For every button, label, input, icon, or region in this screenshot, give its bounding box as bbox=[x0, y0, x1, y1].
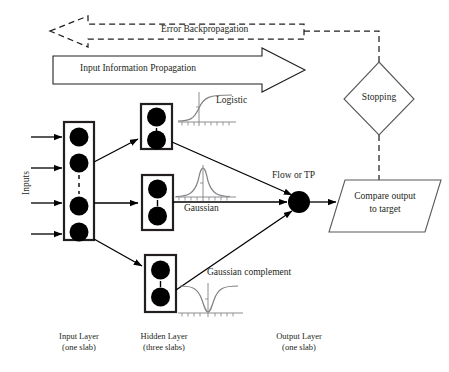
hidden-layer-caption-name: Hidden Layer bbox=[118, 331, 210, 342]
input-node bbox=[70, 197, 89, 216]
gaussian-activation-plot bbox=[175, 165, 236, 201]
input-slab bbox=[64, 122, 94, 242]
output-layer-caption-name: Output Layer bbox=[254, 331, 344, 342]
hidden-node bbox=[151, 261, 170, 280]
error-backpropagation-label: Error Backpropagation bbox=[161, 24, 248, 34]
flow-or-tp-label: Flow or TP bbox=[272, 170, 315, 180]
gaussian-label: Gaussian bbox=[184, 203, 219, 213]
compare-output-line-1: Compare output bbox=[335, 190, 435, 203]
hidden-node bbox=[151, 288, 170, 307]
hidden-slab-logistic bbox=[141, 104, 172, 150]
logistic-label: Logistic bbox=[216, 95, 247, 105]
input-node bbox=[70, 223, 89, 242]
output-layer-caption-sub: (one slab) bbox=[254, 342, 344, 353]
hidden-node bbox=[147, 131, 166, 150]
hidden-node bbox=[147, 108, 166, 127]
input-node bbox=[70, 128, 89, 147]
input-to-hidden-connections bbox=[94, 139, 142, 266]
compare-output-line-2: to target bbox=[335, 203, 435, 216]
input-layer-caption-name: Input Layer bbox=[39, 331, 119, 342]
hidden-slab-gaussian-complement bbox=[145, 255, 176, 312]
diagram-canvas bbox=[0, 0, 449, 372]
gaussian-complement-label: Gaussian complement bbox=[207, 267, 291, 277]
stopping-label: Stopping bbox=[344, 92, 414, 102]
input-layer-caption: Input Layer (one slab) bbox=[39, 331, 119, 353]
input-information-propagation-label: Input Information Propagation bbox=[80, 63, 196, 73]
hidden-layer-caption-sub: (three slabs) bbox=[118, 342, 210, 353]
hidden-slab-gaussian bbox=[142, 175, 173, 230]
output-node bbox=[288, 191, 310, 213]
neural-network-architecture-diagram: Error Backpropagation Input Information … bbox=[0, 0, 449, 372]
inputs-label: Inputs bbox=[21, 165, 31, 201]
gaussian-complement-activation-plot bbox=[178, 283, 243, 317]
output-layer-caption: Output Layer (one slab) bbox=[254, 331, 344, 353]
hidden-node bbox=[148, 207, 167, 226]
input-node bbox=[70, 154, 89, 173]
input-arrows bbox=[31, 137, 62, 234]
input-layer-caption-sub: (one slab) bbox=[39, 342, 119, 353]
hidden-node bbox=[148, 180, 167, 199]
hidden-layer-caption: Hidden Layer (three slabs) bbox=[118, 331, 210, 353]
compare-output-label: Compare output to target bbox=[335, 190, 435, 216]
